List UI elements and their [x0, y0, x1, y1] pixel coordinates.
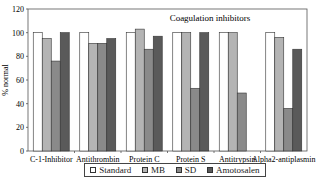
- bar: [173, 33, 182, 151]
- legend-swatch-mb: [142, 167, 148, 173]
- bar: [153, 36, 162, 151]
- y-tick-label: 0: [20, 147, 24, 156]
- bar: [228, 33, 237, 151]
- y-tick-label: 120: [12, 5, 24, 14]
- bar: [144, 49, 153, 151]
- bar: [42, 39, 51, 151]
- legend-swatch-sd: [176, 167, 182, 173]
- bar: [237, 93, 246, 151]
- y-tick-label: 20: [16, 123, 24, 132]
- bar: [89, 43, 98, 151]
- x-tick-label: C-1-Inhibitor: [30, 155, 73, 164]
- legend-item-sd: SD: [176, 165, 197, 175]
- y-tick-label: 60: [16, 76, 24, 85]
- legend-label: Amotosalen: [216, 165, 260, 175]
- plot-frame: [28, 9, 307, 151]
- legend-item-mb: MB: [142, 165, 165, 175]
- bar: [182, 33, 191, 151]
- y-tick-label: 80: [16, 52, 24, 61]
- chart-legend: Standard MB SD Amotosalen: [84, 163, 266, 177]
- bar: [266, 33, 275, 151]
- legend-label: MB: [151, 165, 165, 175]
- bar: [80, 33, 89, 151]
- bar: [191, 88, 200, 151]
- bar: [60, 33, 69, 151]
- legend-item-standard: Standard: [90, 165, 131, 175]
- chart-bars: [33, 29, 302, 151]
- legend-swatch-standard: [90, 167, 96, 173]
- bar: [126, 33, 135, 151]
- bar: [275, 37, 284, 151]
- legend-swatch-amotosalen: [207, 167, 213, 173]
- bar: [219, 33, 228, 151]
- legend-label: Standard: [99, 165, 131, 175]
- bar: [200, 33, 209, 151]
- bar-chart: 020406080100120C-1-InhibitorAntithrombin…: [0, 0, 319, 181]
- legend-label: SD: [185, 165, 197, 175]
- bar: [293, 49, 302, 151]
- bar: [98, 43, 107, 151]
- y-axis-label: % normal: [1, 64, 10, 96]
- bar: [135, 29, 144, 151]
- bar: [284, 108, 293, 151]
- bar: [33, 33, 42, 151]
- chart-title: Coagulation inhibitors: [170, 13, 251, 23]
- legend-item-amotosalen: Amotosalen: [207, 165, 260, 175]
- bar: [107, 39, 116, 151]
- y-tick-label: 100: [12, 29, 24, 38]
- y-tick-label: 40: [16, 100, 24, 109]
- bar: [51, 61, 60, 151]
